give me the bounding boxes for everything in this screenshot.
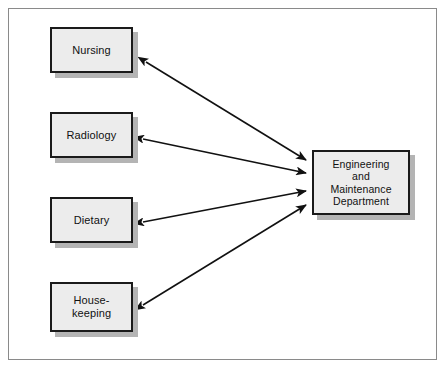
connector-dietary-department: [143, 191, 306, 222]
department-box-radiology[interactable]: Radiology: [50, 112, 133, 158]
department-box-nursing[interactable]: Nursing: [50, 27, 133, 73]
department-label-nursing: Nursing: [72, 44, 111, 57]
department-box-engineering-maintenance[interactable]: Engineering and Maintenance Department: [312, 150, 410, 215]
diagram-canvas: Nursing Radiology Dietary House- keeping…: [0, 0, 447, 372]
department-label-radiology: Radiology: [67, 129, 117, 142]
department-box-dietary[interactable]: Dietary: [50, 197, 133, 243]
department-label-engineering-maintenance: Engineering and Maintenance Department: [330, 158, 391, 208]
department-label-dietary: Dietary: [74, 214, 110, 227]
department-box-housekeeping[interactable]: House- keeping: [50, 282, 133, 332]
connector-housekeeping-department: [143, 205, 306, 305]
department-label-housekeeping: House- keeping: [72, 294, 111, 320]
